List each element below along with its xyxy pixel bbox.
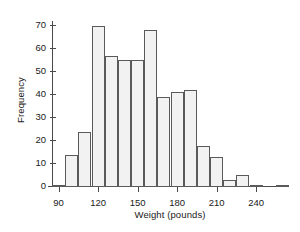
y-tick: 50 <box>50 71 56 72</box>
x-tick-label: 210 <box>209 197 225 209</box>
histogram-bar <box>223 180 236 187</box>
histogram-figure: Frequency 010203040506070 90120150180210… <box>0 0 300 232</box>
histogram-bar <box>184 90 197 187</box>
histogram-bar <box>236 175 249 187</box>
y-tick-label: 40 <box>35 88 46 100</box>
y-tick-label: 0 <box>41 180 46 192</box>
histogram-bar <box>65 155 78 187</box>
y-tick: 40 <box>50 94 56 95</box>
histogram-bar <box>144 30 157 187</box>
x-tick: 90 <box>59 187 60 192</box>
x-tick: 180 <box>177 187 178 192</box>
x-tick: 210 <box>217 187 218 192</box>
x-tick-label: 90 <box>53 197 64 209</box>
x-tick-label: 150 <box>130 197 146 209</box>
histogram-bar <box>197 146 210 188</box>
x-tick-label: 120 <box>90 197 106 209</box>
histogram-bar <box>52 185 65 187</box>
y-axis-title: Frequency <box>14 15 28 185</box>
plot-area: 010203040506070 90120150180210240 <box>48 18 292 190</box>
y-tick-label: 30 <box>35 111 46 123</box>
y-tick-label: 10 <box>35 157 46 169</box>
histogram-bar <box>171 92 184 187</box>
y-tick: 60 <box>50 48 56 49</box>
x-tick: 240 <box>256 187 257 192</box>
y-tick: 70 <box>50 25 56 26</box>
x-tick: 120 <box>98 187 99 192</box>
histogram-bar <box>276 185 289 187</box>
x-tick: 150 <box>138 187 139 192</box>
y-tick: 20 <box>50 140 56 141</box>
x-axis-title: Weight (pounds) <box>48 209 292 220</box>
y-tick-label: 60 <box>35 42 46 54</box>
y-tick-label: 70 <box>35 19 46 31</box>
y-tick-label: 50 <box>35 65 46 77</box>
y-tick-label: 20 <box>35 134 46 146</box>
histogram-bar <box>250 185 263 187</box>
y-tick: 10 <box>50 163 56 164</box>
histogram-bar <box>157 97 170 187</box>
x-tick-label: 180 <box>169 197 185 209</box>
x-tick-label: 240 <box>248 197 264 209</box>
y-tick: 30 <box>50 117 56 118</box>
histogram-bar <box>78 132 91 187</box>
histogram-bar <box>92 26 105 187</box>
histogram-bar <box>105 56 118 187</box>
histogram-bar <box>210 157 223 187</box>
histogram-bar <box>131 60 144 187</box>
histogram-bar <box>118 60 131 187</box>
